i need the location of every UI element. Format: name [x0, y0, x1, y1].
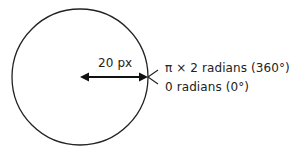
end-angle-label: π × 2 radians (360°) [165, 61, 290, 75]
diagram-canvas [0, 0, 293, 151]
radius-arrow [80, 73, 148, 82]
radius-label: 20 px [98, 56, 132, 70]
start-angle-label: 0 radians (0°) [165, 80, 249, 94]
angle-ticks [148, 70, 158, 84]
